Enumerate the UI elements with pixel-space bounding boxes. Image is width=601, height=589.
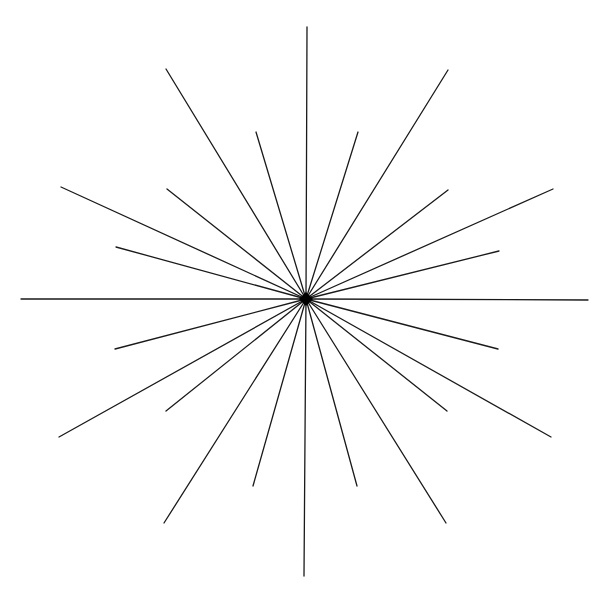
ray-line (306, 299, 498, 349)
ray-line (306, 299, 447, 411)
ray-line (306, 27, 307, 299)
ray-line (167, 189, 306, 299)
ray-line (61, 187, 306, 299)
ray-line (306, 70, 448, 299)
ray-line (304, 299, 306, 576)
ray-line (306, 132, 358, 299)
ray-line (306, 190, 448, 299)
ray-line (253, 299, 306, 486)
ray-line (306, 299, 588, 300)
ray-line (115, 299, 306, 349)
ray-line (306, 299, 357, 486)
ray-line (306, 299, 446, 523)
starburst-diagram (0, 0, 601, 589)
ray-line (116, 247, 306, 299)
center-hub (299, 292, 313, 306)
ray-line (256, 132, 306, 299)
ray-line (306, 251, 499, 299)
ray-line (166, 299, 306, 411)
ray-line (306, 189, 553, 299)
ray-line (166, 69, 306, 299)
ray-line (306, 299, 551, 437)
starburst-graphic (0, 0, 601, 589)
ray-line (59, 299, 306, 437)
ray-line (164, 299, 306, 523)
